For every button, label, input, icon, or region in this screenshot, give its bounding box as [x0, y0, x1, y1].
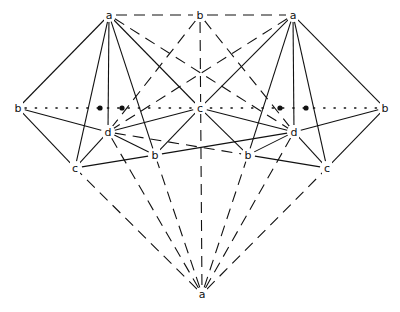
node-a_tl: a: [106, 9, 113, 22]
edge-c_left-b_lc: [82, 156, 148, 167]
node-b_right: b: [382, 102, 389, 115]
node-d_right: d: [291, 126, 298, 139]
node-c_right: c: [324, 162, 330, 175]
edge-b_top-a_bot: [200, 22, 202, 287]
graph-diagram: ababcbddbbcca: [0, 0, 400, 312]
node-b_rc: b: [245, 149, 252, 162]
node-c_left: c: [72, 162, 78, 175]
edge-a_bot-b_rc: [204, 162, 246, 288]
node-d_left: d: [105, 126, 112, 139]
node-b_lc: b: [152, 149, 159, 162]
edge-c_mid-b_rc: [205, 113, 243, 150]
edge-a_tl-d_left: [108, 22, 109, 125]
edge-d_left-c_left: [80, 137, 104, 163]
point-marker: [97, 105, 102, 110]
edge-b_top-d_left: [112, 21, 195, 127]
point-marker: [119, 105, 124, 110]
node-a_bot: a: [199, 288, 206, 301]
node-b_top: b: [197, 9, 204, 22]
edge-a_bot-b_lc: [157, 162, 200, 288]
node-c_mid: c: [197, 102, 203, 115]
edge-c_mid-b_lc: [160, 113, 195, 150]
edge-a_bot-c_left: [80, 173, 197, 289]
point-marker: [303, 105, 308, 110]
edge-c_right-b_rc: [255, 156, 320, 167]
edge-a_tr-d_right: [293, 22, 294, 125]
node-a_tr: a: [290, 9, 297, 22]
edge-b_top-d_right: [204, 20, 289, 126]
edges-layer: [23, 15, 380, 289]
edge-a_tr-c_mid: [205, 20, 288, 103]
edge-d_right-c_right: [299, 137, 323, 163]
edge-a_bot-c_right: [207, 173, 322, 289]
point-marker: [277, 105, 282, 110]
node-b_left: b: [15, 102, 22, 115]
